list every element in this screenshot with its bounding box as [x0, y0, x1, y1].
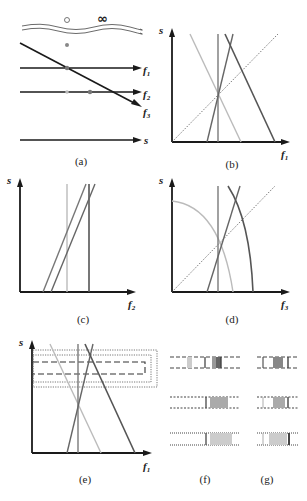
row-2 [170, 397, 240, 408]
y-axis-arrow [169, 28, 175, 37]
light-arc [172, 201, 233, 292]
caption-d: (d) [217, 313, 247, 325]
arrow-f3 [131, 99, 142, 107]
y-label: s [158, 24, 163, 36]
y-label: s [18, 336, 23, 348]
panel-d-diagram: s f3 [150, 150, 307, 310]
circle-symbol [65, 18, 70, 23]
y-label: s [158, 174, 163, 186]
dashed-u-shape [33, 362, 145, 374]
dark-line [85, 344, 135, 453]
panel-a: ∞ f1 f2 f3 s [0, 0, 155, 160]
slanted-line-1 [43, 184, 86, 292]
x-axis-arrow [143, 450, 152, 456]
dark-line [225, 34, 275, 142]
arrow-f2 [133, 89, 142, 95]
row-3 [170, 433, 240, 445]
x-axis-arrow [281, 139, 290, 145]
caption-e: (e) [70, 473, 100, 485]
steep-line [207, 186, 240, 292]
row-1 [170, 357, 240, 368]
panel-b-diagram: s f1 [150, 0, 307, 165]
label-s: s [143, 134, 148, 146]
wavy-line-top [22, 24, 142, 30]
dark-arc [228, 186, 253, 292]
x-label: f3 [281, 298, 289, 312]
row-1 [257, 357, 297, 368]
line-f3 [20, 43, 136, 104]
panel-g-diagram [245, 340, 307, 475]
panel-b: s f1 [150, 0, 307, 165]
panel-f [165, 340, 245, 475]
dotted-box-outer [33, 350, 157, 387]
steep-line [207, 34, 233, 142]
y-label: s [6, 174, 11, 186]
dot-f2-light [65, 90, 69, 94]
y-axis-arrow [29, 340, 35, 349]
infinity-symbol: ∞ [97, 11, 108, 26]
dot-f2-dark [88, 90, 92, 94]
panel-c: s f2 [0, 150, 155, 310]
x-axis-arrow [281, 289, 290, 295]
panel-f-diagram [165, 340, 245, 475]
diagonal-dotted [172, 34, 278, 142]
caption-f: (f) [190, 473, 220, 485]
y-axis-arrow [17, 178, 23, 187]
steep-line [67, 344, 93, 453]
y-axis-arrow [169, 178, 175, 187]
row-3 [257, 433, 299, 445]
panel-c-diagram: s f2 [0, 150, 155, 310]
panel-e-diagram: s f1 [0, 310, 170, 480]
dot-f1 [65, 66, 69, 70]
arrow-f1 [133, 65, 142, 71]
panel-a-diagram: ∞ f1 f2 f3 s [0, 0, 155, 160]
caption-g: (g) [252, 473, 282, 485]
arrow-s [133, 137, 142, 143]
panel-d: s f3 [150, 150, 307, 310]
x-label: f1 [143, 460, 150, 474]
x-axis-arrow [127, 289, 136, 295]
row-2 [257, 397, 299, 408]
dot-marker [65, 43, 69, 47]
panel-g [245, 340, 307, 475]
panel-e: s f1 [0, 310, 170, 480]
